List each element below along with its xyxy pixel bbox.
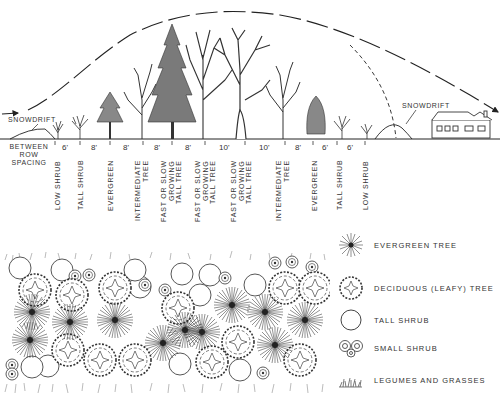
spacing-value: 6' xyxy=(322,143,328,152)
tall-deciduous-tree-2 xyxy=(214,28,270,139)
spacing-value: 6' xyxy=(347,143,353,152)
evergreen-tree-icon xyxy=(338,232,364,258)
legend-item-legumes-grasses: LEGUMES AND GRASSES xyxy=(338,365,486,395)
legend-item-tall-shrub: TALL SHRUB xyxy=(338,305,429,335)
snowdrift-left-mound xyxy=(10,129,55,139)
legend-label: DECIDUOUS (LEAFY) TREE xyxy=(374,284,494,293)
legend-label: LEGUMES AND GRASSES xyxy=(374,376,486,385)
snowdrift-label-left: SNOWDRIFT xyxy=(8,116,56,124)
spacing-value: 8' xyxy=(185,143,191,152)
tall-shrub-icon xyxy=(338,307,364,333)
tall-deciduous-tree-1 xyxy=(186,30,232,139)
legumes-grasses-icon xyxy=(338,367,364,393)
spacing-value: 10' xyxy=(219,143,229,152)
label-line-1: BETWEEN xyxy=(6,143,52,151)
legend-label: EVERGREEN TREE xyxy=(374,241,457,250)
row-label: TALL SHRUB xyxy=(336,160,344,240)
low-shrub-right xyxy=(361,124,372,139)
spacing-value: 6' xyxy=(62,143,68,152)
tall-shrub-right xyxy=(334,116,350,139)
intermediate-tree-right xyxy=(266,62,300,139)
spacing-value: 8' xyxy=(154,143,160,152)
legend-label: TALL SHRUB xyxy=(374,316,429,325)
tall-shrub-left xyxy=(72,115,88,139)
row-label: EVERGREEN xyxy=(107,160,115,240)
windbreak-plan-view xyxy=(0,250,330,400)
row-label: TALL SHRUB xyxy=(77,160,85,240)
label-line-2: ROW xyxy=(6,151,52,159)
legend-label: SMALL SHRUB xyxy=(374,344,438,353)
row-label: FAST OR SLOW GROWING TALL TREE xyxy=(194,160,217,240)
spacing-value: 8' xyxy=(123,143,129,152)
row-spacing-dividers xyxy=(55,141,365,145)
legend-item-deciduous: DECIDUOUS (LEAFY) TREE xyxy=(338,273,494,303)
row-label: INTERMEDIATE TREE xyxy=(134,160,149,240)
label-line-3: SPACING xyxy=(6,159,52,167)
legend-item-small-shrub: SMALL SHRUB xyxy=(338,333,438,363)
spacing-value: 8' xyxy=(295,143,301,152)
windbreak-profile-drawing xyxy=(0,0,500,145)
house-icon xyxy=(432,111,492,138)
intermediate-tree-left xyxy=(124,64,156,139)
row-label: INTERMEDIATE TREE xyxy=(275,160,290,240)
tall-evergreen-tree xyxy=(148,24,196,139)
spacing-value: 8' xyxy=(91,143,97,152)
row-label: EVERGREEN xyxy=(311,160,319,240)
wind-flow-arrows xyxy=(2,12,498,114)
legend-item-evergreen: EVERGREEN TREE xyxy=(338,230,457,260)
snow-fall-dashed-line xyxy=(350,45,396,138)
row-label: FAST OR SLOW GROWING TALL TREE xyxy=(160,160,183,240)
spacing-value: 10' xyxy=(259,143,269,152)
between-row-spacing-label: BETWEEN ROW SPACING xyxy=(6,143,52,167)
row-label: LOW SHRUB xyxy=(362,160,370,240)
snowdrift-right-mound xyxy=(375,125,412,139)
snowdrift-label-right: SNOWDRIFT xyxy=(402,102,450,110)
small-shrub-icon xyxy=(338,335,364,361)
row-label: LOW SHRUB xyxy=(54,160,62,240)
deciduous-tree-icon xyxy=(338,275,364,301)
row-label: FAST OR SLOW GROWING TALL TREE xyxy=(230,160,253,240)
evergreen-right xyxy=(307,96,325,134)
evergreen-left xyxy=(97,92,123,139)
